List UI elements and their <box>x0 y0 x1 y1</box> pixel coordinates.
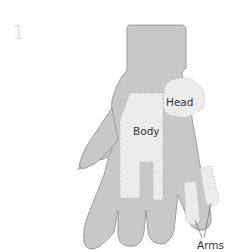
arms-label: Arms <box>197 239 224 251</box>
head-label: Head <box>166 96 193 108</box>
glove-diagram: Head Body Arms <box>0 0 239 252</box>
body-label: Body <box>133 125 160 137</box>
